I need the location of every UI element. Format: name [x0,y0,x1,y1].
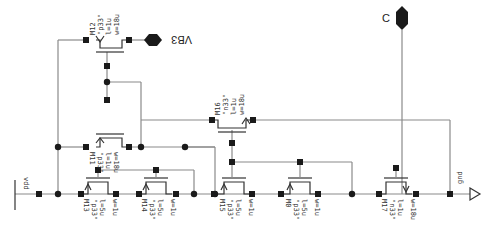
svg-text:M14: M14 [140,199,148,212]
gnd-label: gnd [456,171,464,184]
svg-text:M13: M13 [82,199,90,212]
svg-text:w=1u: w=1u [111,199,119,216]
svg-text:"p33": "p33" [226,199,234,220]
svg-text:"p33": "p33" [97,14,105,35]
transistor-m0 [284,162,316,194]
gnd-pin[interactable]: gnd [456,171,480,200]
svg-text:l=5u: l=5u [234,199,242,216]
vdd-label: vdd [22,177,30,190]
c-pin[interactable]: C [382,6,408,30]
svg-text:"p33": "p33" [90,199,98,220]
label-m13: M13 "p33" l=5u w=1u [82,199,119,220]
svg-text:w=18u: w=18u [112,152,120,173]
transistor-m12 [96,36,128,52]
svg-text:"p33": "p33" [96,152,104,173]
label-m11: M11 "p33" l=1u w=18u [88,152,120,173]
svg-text:l=1u: l=1u [396,199,404,216]
svg-text:M12: M12 [89,22,97,35]
label-m15: M15 "p33" l=5u w=1u [218,199,255,220]
c-label: C [382,12,390,24]
svg-text:w=1u: w=1u [169,199,177,216]
svg-text:w=1u: w=1u [247,199,255,216]
svg-text:M16: M16 [214,102,222,115]
label-m12: M12 "p33" l=1u w=18u [89,14,121,35]
svg-text:M15: M15 [218,199,226,212]
transistor-m13 [82,170,114,194]
svg-text:w=1u: w=1u [313,199,321,216]
wires [15,30,470,210]
vb3-pin[interactable]: VB3 [144,34,192,46]
svg-text:M11: M11 [88,152,96,165]
transistor-m11 [96,134,128,147]
svg-text:w=18u: w=18u [113,14,121,35]
schematic-canvas: VB3 C gnd vdd M12 "p33" l=1u w=18u M11 "… [0,0,484,232]
transistor-m17 [380,168,412,194]
label-m0: M0 "p33" l=5u w=1u [284,199,321,220]
transistor-m15 [218,162,250,194]
svg-text:w=18u: w=18u [238,94,246,115]
svg-text:M17: M17 [380,199,388,212]
label-m14: M14 "p33" l=5u w=1u [140,199,177,220]
svg-text:l=1u: l=1u [230,98,238,115]
svg-text:l=5u: l=5u [98,199,106,216]
label-m17: M17 "n33" l=1u w=18u [380,199,417,220]
svg-text:l=1u: l=1u [104,152,112,169]
label-m16: M16 "n33" l=1u w=18u [214,94,246,115]
transistor-m16 [214,118,250,132]
svg-text:M0: M0 [284,199,292,207]
svg-text:"n33": "n33" [222,94,230,115]
transistor-m14 [140,170,172,194]
svg-text:l=5u: l=5u [156,199,164,216]
svg-text:w=18u: w=18u [409,199,417,220]
vb3-label: VB3 [171,34,192,46]
svg-text:"p33": "p33" [148,199,156,220]
svg-text:"n33": "n33" [388,199,396,220]
svg-text:l=1u: l=1u [105,18,113,35]
svg-text:l=5u: l=5u [300,199,308,216]
svg-text:"p33": "p33" [292,199,300,220]
